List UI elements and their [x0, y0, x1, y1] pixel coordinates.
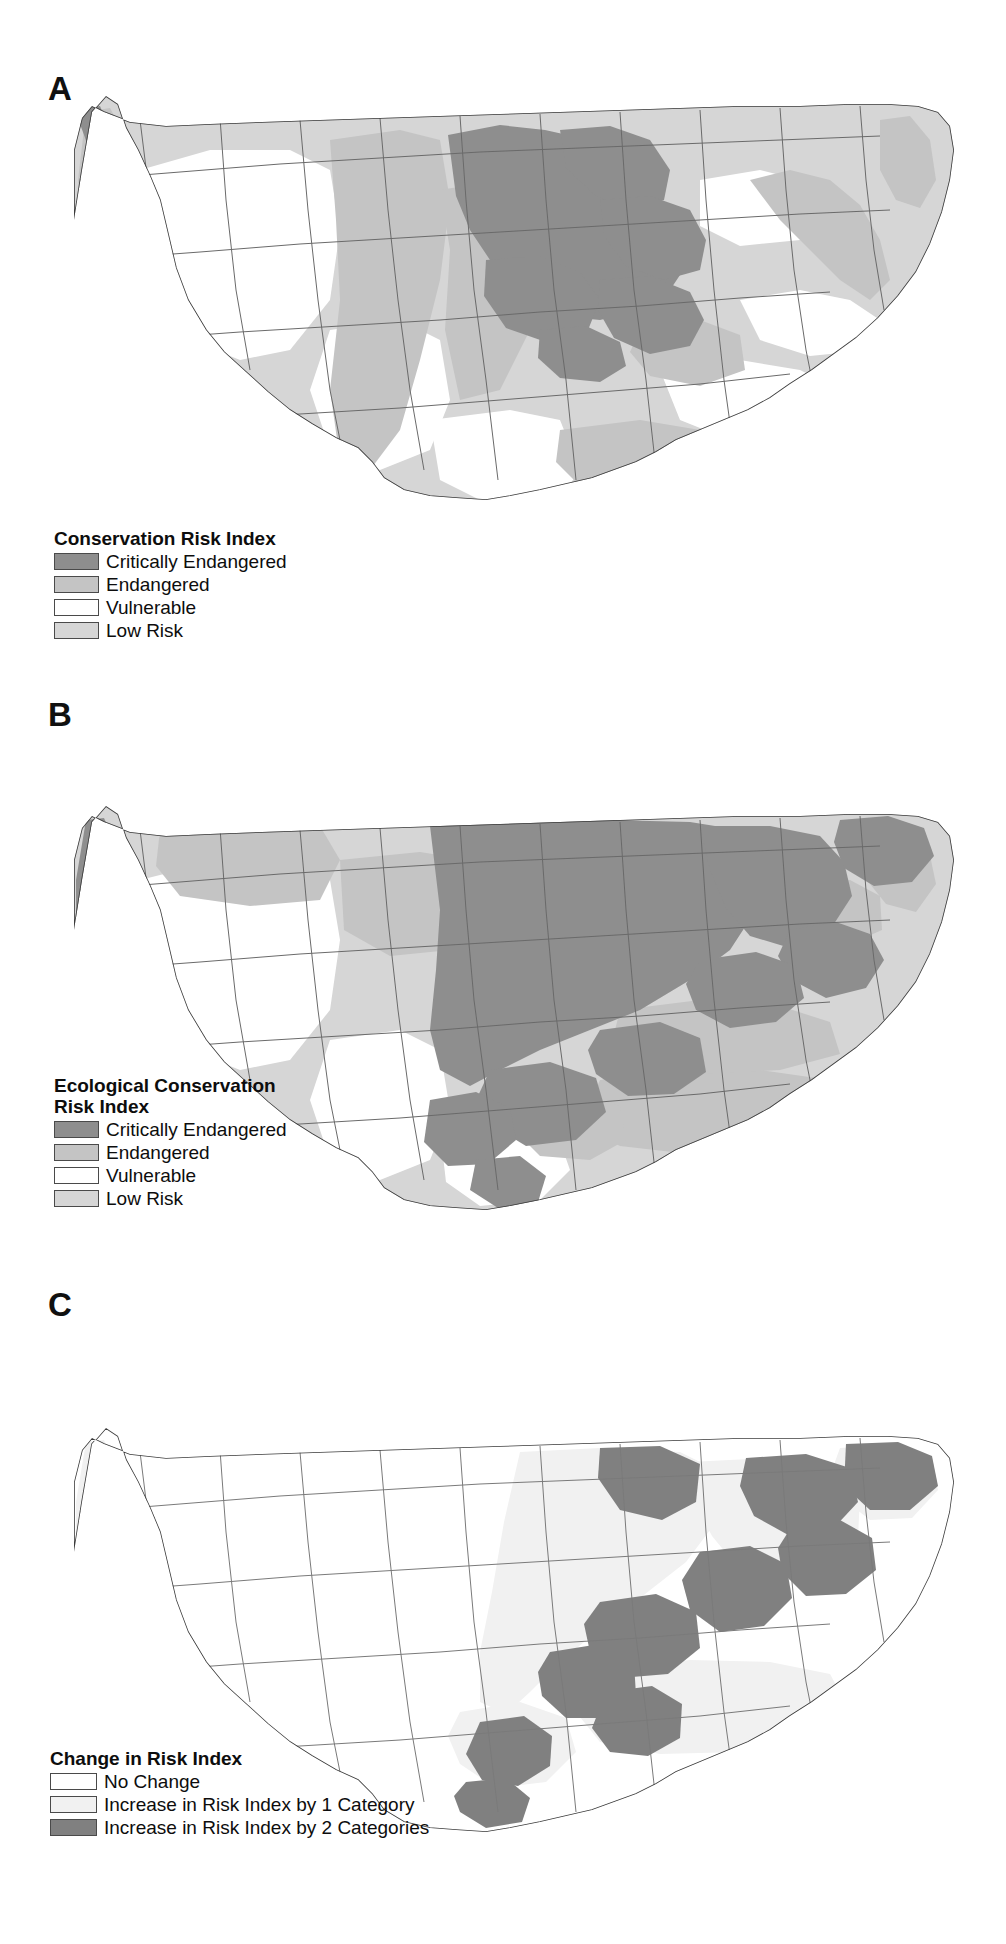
legend-item-low-risk: Low Risk [54, 619, 287, 642]
panel-c-legend-title: Change in Risk Index [50, 1748, 429, 1769]
legend-item-endangered: Endangered [54, 1141, 287, 1164]
panel-b-legend-title: Ecological Conservation Risk Index [54, 1075, 287, 1117]
legend-label-endangered: Endangered [106, 574, 210, 595]
panel-c: C [0, 1280, 1006, 1944]
panel-a: A [0, 0, 1006, 660]
swatch-critically-endangered [54, 1121, 99, 1138]
legend-label-low-risk: Low Risk [106, 1188, 183, 1209]
legend-item-critically-endangered: Critically Endangered [54, 550, 287, 573]
legend-label-critically-endangered: Critically Endangered [106, 551, 287, 572]
legend-item-low-risk: Low Risk [54, 1187, 287, 1210]
legend-label-increase-2: Increase in Risk Index by 2 Categories [104, 1817, 429, 1838]
legend-item-increase-1: Increase in Risk Index by 1 Category [50, 1793, 429, 1816]
legend-label-vulnerable: Vulnerable [106, 597, 196, 618]
swatch-critically-endangered [54, 553, 99, 570]
swatch-endangered [54, 576, 99, 593]
panel-a-legend: Conservation Risk Index Critically Endan… [54, 528, 287, 642]
legend-item-increase-2: Increase in Risk Index by 2 Categories [50, 1816, 429, 1839]
legend-label-low-risk: Low Risk [106, 620, 183, 641]
legend-label-no-change: No Change [104, 1771, 200, 1792]
legend-label-critically-endangered: Critically Endangered [106, 1119, 287, 1140]
legend-item-vulnerable: Vulnerable [54, 596, 287, 619]
legend-item-no-change: No Change [50, 1770, 429, 1793]
swatch-increase-2 [50, 1819, 97, 1836]
panel-b: B [0, 660, 1006, 1280]
swatch-vulnerable [54, 599, 99, 616]
panel-a-legend-title: Conservation Risk Index [54, 528, 287, 549]
swatch-low-risk [54, 622, 99, 639]
legend-item-endangered: Endangered [54, 573, 287, 596]
legend-item-critically-endangered: Critically Endangered [54, 1118, 287, 1141]
swatch-no-change [50, 1773, 97, 1790]
swatch-endangered [54, 1144, 99, 1161]
legend-label-increase-1: Increase in Risk Index by 1 Category [104, 1794, 415, 1815]
legend-label-vulnerable: Vulnerable [106, 1165, 196, 1186]
legend-item-vulnerable: Vulnerable [54, 1164, 287, 1187]
swatch-increase-1 [50, 1796, 97, 1813]
panel-b-legend: Ecological Conservation Risk Index Criti… [54, 1075, 287, 1210]
panel-c-legend: Change in Risk Index No Change Increase … [50, 1748, 429, 1839]
legend-label-endangered: Endangered [106, 1142, 210, 1163]
swatch-low-risk [54, 1190, 99, 1207]
swatch-vulnerable [54, 1167, 99, 1184]
